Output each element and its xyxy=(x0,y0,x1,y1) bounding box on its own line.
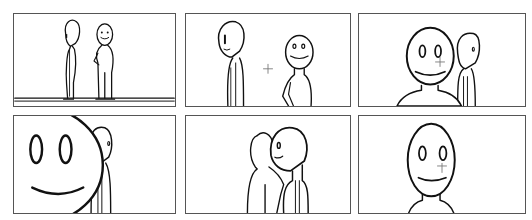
panel-6-drawing xyxy=(359,116,525,213)
smiling-face-figure xyxy=(14,116,103,213)
profile-figure xyxy=(64,20,80,99)
storyboard-panel-4 xyxy=(13,115,176,214)
smiling-face-figure xyxy=(408,124,455,213)
smiling-face-figure xyxy=(397,28,462,106)
storyboard-panel-6 xyxy=(358,115,526,214)
profile-figure xyxy=(457,33,479,106)
profile-figure xyxy=(271,128,308,213)
front-figure xyxy=(283,36,313,106)
storyboard-panel-2 xyxy=(185,13,351,107)
panel-1-drawing xyxy=(14,14,175,106)
panel-2-drawing xyxy=(186,14,350,106)
panel-3-drawing xyxy=(359,14,525,106)
storyboard-panel-1 xyxy=(13,13,176,107)
storyboard-panel-5 xyxy=(185,115,351,214)
front-figure xyxy=(94,24,115,99)
panel-4-drawing xyxy=(14,116,175,213)
panel-5-drawing xyxy=(186,116,350,213)
crosshair-icon xyxy=(263,64,273,74)
profile-figure xyxy=(219,22,245,106)
storyboard-panel-3 xyxy=(358,13,526,107)
